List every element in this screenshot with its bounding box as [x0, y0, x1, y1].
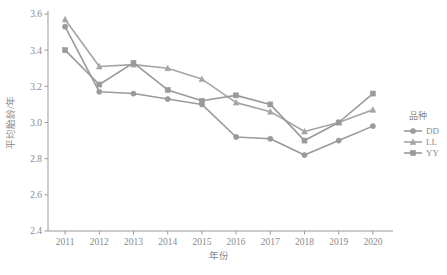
- square-marker-icon: [131, 60, 136, 65]
- y-axis: 2.42.62.83.03.23.43.6: [30, 9, 48, 236]
- square-marker-icon: [165, 87, 170, 92]
- triangle-marker-icon: [62, 16, 68, 22]
- y-tick-label: 2.6: [30, 190, 42, 200]
- x-tick-label: 2011: [56, 237, 75, 247]
- series-line-ll: [65, 19, 373, 131]
- circle-marker-icon: [370, 124, 375, 129]
- x-tick-label: 2019: [329, 237, 348, 247]
- triangle-marker-icon: [370, 107, 376, 113]
- y-tick-label: 3.0: [30, 118, 42, 128]
- y-tick-label: 2.8: [30, 154, 42, 164]
- legend-label-yy: YY: [426, 148, 439, 158]
- x-tick-label: 2012: [90, 237, 109, 247]
- series-yy: [63, 48, 376, 143]
- square-marker-icon: [199, 98, 204, 103]
- x-tick-label: 2018: [295, 237, 314, 247]
- square-marker-icon: [302, 138, 307, 143]
- legend-label-ll: LL: [426, 137, 437, 147]
- x-axis: 2011201220132014201520162017201820192020: [48, 231, 393, 247]
- circle-marker-icon: [165, 96, 170, 101]
- circle-marker-icon: [97, 89, 102, 94]
- x-tick-label: 2017: [261, 237, 280, 247]
- circle-marker-icon: [131, 91, 136, 96]
- series-ll: [62, 16, 376, 134]
- y-tick-label: 3.2: [30, 82, 42, 92]
- square-marker-icon: [268, 102, 273, 107]
- circle-marker-icon: [234, 134, 239, 139]
- circle-marker-icon: [410, 128, 415, 133]
- legend-item-dd[interactable]: DD: [404, 126, 439, 136]
- legend-label-dd: DD: [426, 126, 439, 136]
- legend: 品种DDLLYY: [404, 110, 439, 158]
- legend-title: 品种: [409, 110, 427, 121]
- x-axis-title: 年份: [209, 250, 229, 261]
- line-chart: 2.42.62.83.03.23.43.6 201120122013201420…: [0, 0, 447, 275]
- x-tick-label: 2013: [124, 237, 143, 247]
- square-marker-icon: [234, 93, 239, 98]
- legend-item-yy[interactable]: YY: [404, 148, 439, 158]
- x-tick-label: 2015: [192, 237, 211, 247]
- circle-marker-icon: [63, 24, 68, 29]
- square-marker-icon: [336, 120, 341, 125]
- chart-container: 2.42.62.83.03.23.43.6 201120122013201420…: [0, 0, 447, 275]
- x-tick-label: 2020: [363, 237, 382, 247]
- series-layer: [62, 16, 376, 157]
- series-line-yy: [65, 50, 373, 140]
- circle-marker-icon: [268, 136, 273, 141]
- square-marker-icon: [411, 151, 416, 156]
- y-tick-label: 3.6: [30, 9, 42, 19]
- y-tick-label: 3.4: [30, 46, 42, 56]
- x-tick-label: 2016: [227, 237, 246, 247]
- square-marker-icon: [63, 48, 68, 53]
- x-tick-label: 2014: [158, 237, 177, 247]
- circle-marker-icon: [302, 152, 307, 157]
- circle-marker-icon: [336, 138, 341, 143]
- y-tick-label: 2.4: [30, 226, 42, 236]
- legend-item-ll[interactable]: LL: [404, 137, 437, 147]
- square-marker-icon: [97, 82, 102, 87]
- square-marker-icon: [370, 91, 375, 96]
- y-axis-title: 平均胎龄/年: [5, 96, 16, 149]
